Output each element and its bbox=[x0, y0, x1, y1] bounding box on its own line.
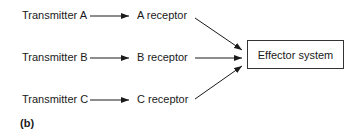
transmitter-a: Transmitter A bbox=[22, 9, 87, 22]
transmitter-b: Transmitter B bbox=[22, 51, 88, 64]
receptor-a: A receptor bbox=[137, 9, 187, 22]
receptor-c: C receptor bbox=[137, 93, 188, 106]
arrow-c-effector bbox=[195, 66, 242, 99]
panel-label: (b) bbox=[20, 117, 34, 129]
effector-system-box: Effector system bbox=[247, 40, 344, 69]
effector-system-label: Effector system bbox=[258, 49, 334, 61]
arrow-a-effector bbox=[195, 18, 242, 50]
receptor-b: B receptor bbox=[137, 51, 188, 64]
transmitter-c: Transmitter C bbox=[22, 93, 88, 106]
